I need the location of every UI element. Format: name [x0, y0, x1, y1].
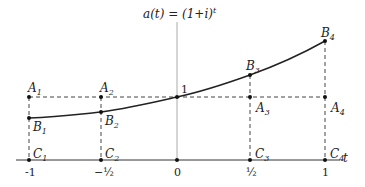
x-axis-label: t [343, 151, 348, 165]
label-A4: A4 [330, 101, 345, 117]
label-A3: A3 [255, 101, 270, 117]
tick-1: 1 [322, 166, 329, 179]
accumulation-diagram: a(t) = (1+i)t A1 A2 A3 A4 B1 B2 B3 B4 C1… [0, 0, 365, 187]
origin-value-label: 1 [181, 83, 188, 96]
tick-0: 0 [174, 166, 181, 179]
label-C1: C1 [33, 147, 47, 163]
label-B1: B1 [32, 120, 47, 136]
label-B4: B4 [320, 26, 335, 42]
tick-minus-1: -1 [25, 166, 36, 179]
label-C2: C2 [105, 147, 119, 163]
label-A2: A2 [99, 81, 114, 97]
label-B2: B2 [104, 114, 119, 130]
tick-minus-half: −½ [94, 166, 114, 179]
label-A1: A1 [27, 81, 42, 97]
label-C3: C3 [255, 147, 269, 163]
tick-half: ½ [246, 166, 257, 179]
label-B3: B3 [245, 59, 260, 75]
function-title: a(t) = (1+i)t [143, 6, 217, 21]
